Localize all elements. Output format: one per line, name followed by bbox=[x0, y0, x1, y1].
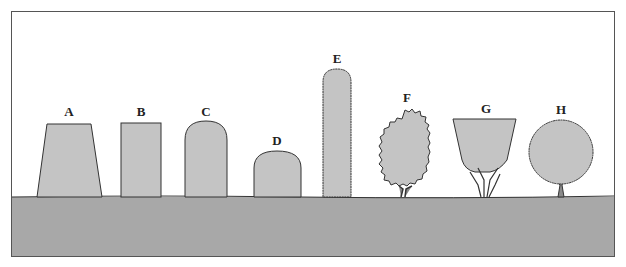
shrub-a: A bbox=[37, 104, 102, 197]
shrub-g: G bbox=[453, 101, 516, 197]
label-c: C bbox=[201, 104, 210, 119]
shrub-d: D bbox=[254, 133, 301, 197]
label-b: B bbox=[137, 104, 146, 119]
label-f: F bbox=[403, 90, 411, 105]
hedge-shapes-diagram: A B C D E F G H bbox=[0, 0, 626, 267]
label-e: E bbox=[333, 51, 342, 66]
shrub-e: E bbox=[323, 51, 351, 197]
shrub-c: C bbox=[185, 104, 227, 197]
label-a: A bbox=[64, 104, 74, 119]
ground bbox=[12, 197, 614, 256]
label-g: G bbox=[481, 101, 491, 116]
label-h: H bbox=[556, 102, 566, 117]
shrub-b: B bbox=[121, 104, 161, 197]
label-d: D bbox=[272, 133, 281, 148]
shrub-f: F bbox=[379, 90, 430, 197]
shrub-h: H bbox=[529, 102, 593, 197]
